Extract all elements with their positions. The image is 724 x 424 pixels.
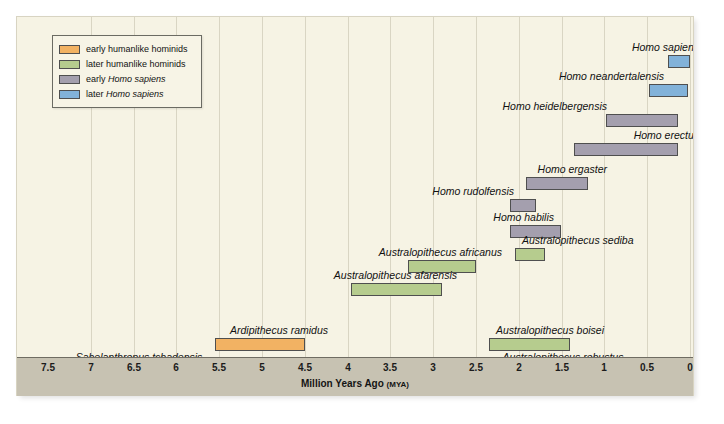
gridline	[519, 17, 520, 357]
legend-swatch	[59, 45, 80, 54]
x-tick-label: 3.5	[383, 362, 397, 373]
x-tick-label: 4.5	[298, 362, 312, 373]
x-tick-label: 6.5	[127, 362, 141, 373]
gridline	[348, 17, 349, 357]
species-label: Homo ergaster	[538, 163, 607, 175]
x-tick-label: 2	[516, 362, 522, 373]
species-label: Homo heidelbergensis	[503, 100, 607, 112]
legend-swatch	[59, 60, 80, 69]
hominid-timeline-figure: Homo sapiensHomo neandertalensisHomo hei…	[17, 17, 693, 395]
x-tick-label: 2.5	[469, 362, 483, 373]
gridline	[690, 17, 691, 357]
gridline	[305, 17, 306, 357]
species-bar	[574, 143, 678, 156]
gridline	[647, 17, 648, 357]
legend-item: later Homo sapiens	[59, 87, 195, 101]
legend-label: early Homo sapiens	[86, 74, 166, 84]
legend-label: early humanlike hominids	[86, 44, 188, 54]
legend-swatch	[59, 75, 80, 84]
species-label: Homo erectus	[634, 129, 693, 141]
x-tick-label: 1	[601, 362, 607, 373]
x-axis-unit: (MYA)	[387, 380, 409, 389]
species-bar	[606, 114, 678, 127]
plot-area: Homo sapiensHomo neandertalensisHomo hei…	[17, 17, 693, 357]
chart-screenshot: Homo sapiensHomo neandertalensisHomo hei…	[0, 0, 724, 424]
species-label: Homo neandertalensis	[559, 70, 664, 82]
x-tick-label: 1.5	[555, 362, 569, 373]
legend-item: early Homo sapiens	[59, 72, 195, 86]
x-axis-title-text: Million Years Ago	[301, 378, 384, 389]
gridline	[219, 17, 220, 357]
species-bar	[526, 177, 588, 190]
x-tick-label: 0.5	[640, 362, 654, 373]
species-bar	[515, 248, 545, 261]
x-tick-label: 4	[345, 362, 351, 373]
species-bar	[668, 55, 690, 68]
legend-label: later Homo sapiens	[86, 89, 164, 99]
gridline	[262, 17, 263, 357]
x-tick-label: 7	[88, 362, 94, 373]
x-tick-label: 5	[259, 362, 265, 373]
species-label: Australopithecus afarensis	[334, 269, 457, 281]
x-tick-label: 0	[687, 362, 693, 373]
species-label: Homo habilis	[493, 211, 554, 223]
species-bar	[215, 338, 305, 351]
gridline	[390, 17, 391, 357]
species-label: Homo rudolfensis	[432, 185, 514, 197]
legend-swatch	[59, 90, 80, 99]
species-bar	[649, 84, 688, 97]
legend-item: early humanlike hominids	[59, 42, 195, 56]
species-bar	[489, 338, 570, 351]
species-label: Ardipithecus ramidus	[230, 324, 328, 336]
species-bar	[351, 283, 442, 296]
x-tick-label: 7.5	[41, 362, 55, 373]
x-tick-label: 6	[173, 362, 179, 373]
x-tick-label: 5.5	[212, 362, 226, 373]
species-label: Australopithecus boisei	[496, 324, 604, 336]
species-label: Homo sapiens	[632, 41, 693, 53]
legend-item: later humanlike hominids	[59, 57, 195, 71]
x-tick-label: 3	[430, 362, 436, 373]
species-label: Australopithecus africanus	[379, 246, 502, 258]
x-axis-band: 7.576.565.554.543.532.521.510.50 Million…	[17, 357, 693, 396]
gridline	[604, 17, 605, 357]
legend-label: later humanlike hominids	[86, 59, 186, 69]
species-label: Australopithecus sediba	[522, 234, 634, 246]
x-axis-title: Million Years Ago (MYA)	[17, 378, 693, 389]
legend: early humanlike hominidslater humanlike …	[52, 35, 202, 108]
